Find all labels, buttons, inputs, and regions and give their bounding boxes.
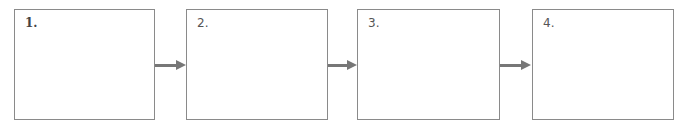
step-box-2: 2. <box>186 9 328 120</box>
step-number-3: 3. <box>368 16 379 30</box>
arrow-shaft <box>500 64 522 67</box>
arrow-head-icon <box>176 60 186 70</box>
step-box-3: 3. <box>357 9 500 120</box>
step-box-4: 4. <box>532 9 674 120</box>
arrow-shaft <box>155 64 177 67</box>
step-number-2: 2. <box>197 16 208 30</box>
arrow-3-to-4 <box>500 60 532 70</box>
arrow-head-icon <box>347 60 357 70</box>
step-number-4: 4. <box>543 16 554 30</box>
arrow-shaft <box>328 64 348 67</box>
arrow-1-to-2 <box>155 60 186 70</box>
step-number-1: 1. <box>25 16 38 30</box>
arrow-head-icon <box>521 60 531 70</box>
arrow-2-to-3 <box>328 60 357 70</box>
step-box-1: 1. <box>14 9 155 120</box>
